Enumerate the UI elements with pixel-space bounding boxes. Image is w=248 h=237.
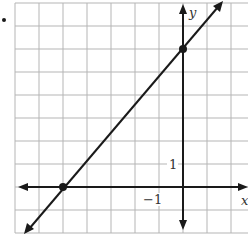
x-axis-right-arrow-icon [238, 183, 248, 191]
coordinate-plane: 1 −1 y x [0, 0, 248, 237]
x-tick-label: −1 [143, 192, 162, 207]
x-intercept-point [59, 183, 67, 191]
x-axis-left-arrow-icon [18, 183, 28, 191]
x-axis-label: x [241, 193, 248, 208]
y-axis-up-arrow-icon [179, 4, 187, 14]
y-tick-label: 1 [169, 157, 177, 172]
y-intercept-point [179, 45, 187, 53]
x-axis [18, 183, 248, 191]
y-axis [179, 4, 187, 230]
bullet-marker [2, 18, 6, 22]
grid [15, 3, 248, 233]
y-axis-label: y [188, 5, 197, 20]
y-axis-down-arrow-icon [179, 220, 187, 230]
